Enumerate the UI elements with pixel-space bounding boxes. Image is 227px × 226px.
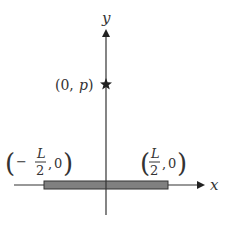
left-sep: , [48, 156, 52, 171]
point-label-close: ) [88, 77, 93, 93]
left-numerator: L [36, 146, 46, 161]
left-end-label: ( − L 2 , 0 ) [5, 146, 73, 178]
y-axis-label: y [101, 9, 111, 27]
right-paren-open: ( [140, 148, 150, 178]
right-numerator: L [150, 146, 160, 161]
right-sep: , [162, 156, 166, 171]
point-label: (0, p ) [55, 77, 93, 93]
y-axis-arrow-icon [102, 29, 110, 37]
right-end-label: ( L 2 , 0 ) [140, 146, 187, 178]
left-sign: − [16, 154, 27, 169]
coordinate-diagram: x y (0, p ) ( − L 2 , 0 ) ( L 2 , 0 ) [0, 0, 227, 226]
x-axis-arrow-icon [197, 181, 205, 189]
left-paren-open: ( [5, 148, 15, 178]
x-axis-label: x [210, 176, 219, 194]
left-paren-close: ) [63, 148, 73, 178]
right-paren-close: ) [177, 148, 187, 178]
right-y: 0 [168, 156, 176, 171]
right-denominator: 2 [150, 163, 158, 178]
left-denominator: 2 [36, 163, 44, 178]
point-label-var: p [79, 77, 88, 93]
left-y: 0 [54, 156, 62, 171]
point-label-open: (0, [55, 77, 74, 93]
